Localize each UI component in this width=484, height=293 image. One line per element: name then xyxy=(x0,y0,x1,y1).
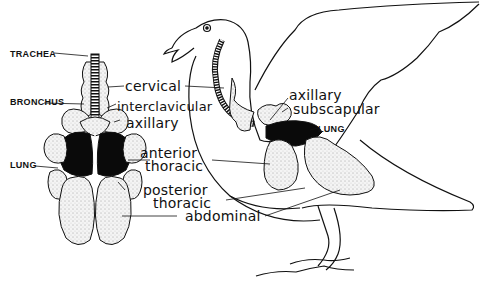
label-trachea: TRACHEA xyxy=(10,50,56,59)
label-axillary-bird: axillary xyxy=(289,88,342,102)
label-anterior-thoracic-2: thoracic xyxy=(145,159,203,173)
label-bronchus: BRONCHUS xyxy=(10,98,64,107)
air-sac-diagram: TRACHEA BRONCHUS LUNG cervical interclav… xyxy=(0,0,484,293)
bird-respiratory-system xyxy=(215,40,374,195)
label-cervical: cervical xyxy=(125,79,181,93)
label-abdominal: abdominal xyxy=(185,209,261,223)
label-subscapular: subscapular xyxy=(293,102,380,116)
label-interclavicular: interclavicular xyxy=(117,100,212,113)
label-lung-bird: LUNG xyxy=(318,125,345,134)
diagram-illustration xyxy=(0,0,484,293)
label-axillary-left: axillary xyxy=(126,116,179,130)
label-lung-left: LUNG xyxy=(10,161,37,170)
